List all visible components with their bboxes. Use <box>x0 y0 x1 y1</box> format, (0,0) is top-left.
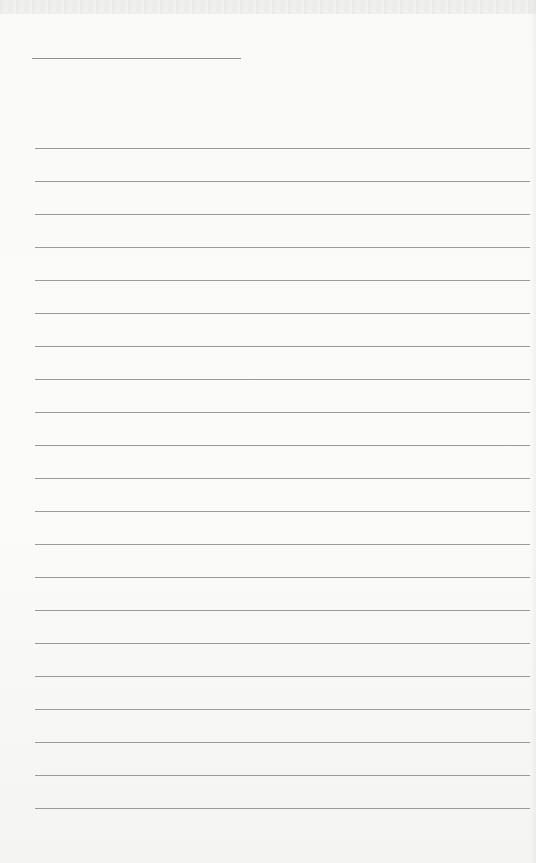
ruled-line <box>35 742 530 743</box>
ruled-line <box>35 247 530 248</box>
ruled-line <box>35 544 530 545</box>
page-edge-shadow <box>530 0 536 863</box>
ruled-line <box>35 148 530 149</box>
ruled-line <box>35 313 530 314</box>
ruled-line <box>35 610 530 611</box>
ruled-line <box>35 511 530 512</box>
ruled-line <box>35 280 530 281</box>
ruled-line <box>35 478 530 479</box>
ruled-line <box>35 214 530 215</box>
top-edge-bleed <box>0 0 536 14</box>
ruled-line <box>35 643 530 644</box>
ruled-line <box>35 445 530 446</box>
ruled-line <box>35 808 530 809</box>
header-line <box>32 58 241 59</box>
ruled-line <box>35 676 530 677</box>
ruled-line <box>35 181 530 182</box>
ruled-line <box>35 412 530 413</box>
ruled-line <box>35 577 530 578</box>
ruled-line <box>35 346 530 347</box>
ruled-line <box>35 775 530 776</box>
ruled-line <box>35 379 530 380</box>
ruled-line <box>35 709 530 710</box>
lined-paper-sheet <box>0 0 536 863</box>
